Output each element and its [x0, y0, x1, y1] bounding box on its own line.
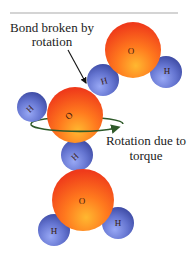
- bond-broken-label-line2: rotation: [32, 34, 73, 49]
- rotation-label-line1: Rotation due to: [106, 133, 186, 148]
- oxygen-label: O: [79, 196, 86, 206]
- bond-broken-arrow: [68, 50, 86, 83]
- bond-broken-label: Bond broken by rotation: [10, 20, 94, 49]
- bond-broken-label-line1: Bond broken by: [10, 20, 94, 35]
- water-molecule-middle: O H H: [17, 87, 123, 171]
- water-molecule-bottom: O H H: [38, 169, 134, 246]
- oxygen-atom: [47, 87, 103, 143]
- hydrogen-label: H: [51, 226, 58, 236]
- hydrogen-label: H: [164, 66, 171, 76]
- water-molecule-top-right: O H H: [87, 22, 182, 96]
- oxygen-label: O: [128, 46, 135, 56]
- hydrogen-label: H: [115, 218, 122, 228]
- rotation-label: Rotation due to torque: [106, 133, 186, 163]
- water-rotation-diagram: Bond broken by rotation O H H O H H Rota…: [0, 0, 195, 263]
- rotation-label-line2: torque: [129, 148, 162, 163]
